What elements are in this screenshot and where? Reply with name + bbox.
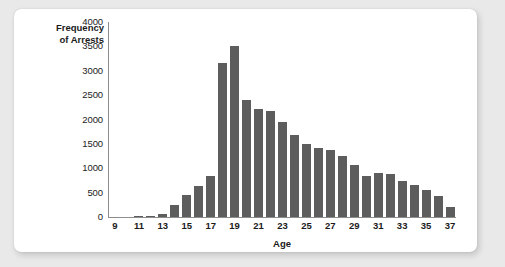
x-axis-tick-label: 15	[177, 220, 197, 231]
x-axis-tick-label: 11	[129, 220, 149, 231]
bar	[410, 185, 419, 217]
bar	[230, 46, 239, 217]
bar	[134, 216, 143, 217]
y-axis-tick-label: 3500	[58, 40, 103, 51]
x-axis-tick-label: 23	[273, 220, 293, 231]
x-axis-tick-label: 13	[153, 220, 173, 231]
bar	[170, 205, 179, 217]
bar	[146, 216, 155, 217]
bar-chart: Frequency of Arrests 0500100015002000250…	[14, 9, 477, 252]
bar	[206, 176, 215, 217]
bar	[254, 109, 263, 217]
x-axis-tick-label: 37	[440, 220, 460, 231]
x-axis-tick-label: 9	[105, 220, 125, 231]
x-axis-tick-label: 33	[392, 220, 412, 231]
x-axis-tick-label: 31	[368, 220, 388, 231]
x-axis-tick-label: 27	[320, 220, 340, 231]
y-axis-tick-label: 1500	[58, 138, 103, 149]
bar	[446, 207, 455, 217]
x-axis-line	[108, 217, 456, 218]
bar	[158, 214, 167, 217]
y-axis-tick-label: 500	[58, 187, 103, 198]
x-axis-tick-label: 35	[416, 220, 436, 231]
y-axis-tick-label: 0	[58, 211, 103, 222]
x-axis-title: Age	[108, 238, 456, 249]
y-axis-tick-label: 2000	[58, 114, 103, 125]
bar	[350, 165, 359, 217]
bar	[290, 135, 299, 217]
x-axis-tick-label: 25	[296, 220, 316, 231]
bar	[434, 196, 443, 217]
bar	[374, 173, 383, 217]
bar	[242, 100, 251, 217]
bar	[362, 176, 371, 217]
bar	[314, 148, 323, 217]
y-axis-tick-label: 2500	[58, 89, 103, 100]
x-axis-tick-label: 17	[201, 220, 221, 231]
figure-card: Frequency of Arrests 0500100015002000250…	[14, 9, 477, 252]
bar	[422, 190, 431, 217]
bar	[182, 195, 191, 217]
bar	[302, 144, 311, 217]
x-axis-tick-label: 29	[344, 220, 364, 231]
x-axis-tick-label: 19	[225, 220, 245, 231]
bar-series	[109, 22, 456, 217]
bar	[386, 174, 395, 217]
x-axis-tick-label: 21	[249, 220, 269, 231]
bar	[398, 181, 407, 217]
y-axis-tick-label: 4000	[58, 16, 103, 27]
bar	[218, 63, 227, 217]
bar	[266, 111, 275, 217]
bar	[326, 150, 335, 217]
bar	[338, 156, 347, 217]
y-axis-tick-label: 3000	[58, 65, 103, 76]
y-axis-tick-label: 1000	[58, 162, 103, 173]
bar	[278, 122, 287, 217]
bar	[194, 186, 203, 217]
